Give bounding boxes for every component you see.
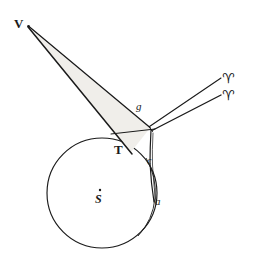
label-center-s: S [95,193,102,205]
center-dot [99,189,101,191]
vertex-dot [27,25,30,28]
label-aries-upper-icon: ♈ [222,71,235,85]
label-point-c: c [147,156,151,166]
sight-wedge-fill [28,27,150,152]
label-point-g: g [136,101,142,112]
label-aries-lower-icon: ♈ [222,88,235,102]
ray-g-to-aries-upper [150,78,222,127]
main-circle [47,138,157,248]
diagram-svg [0,0,259,265]
curve-g-c-a [150,130,154,202]
line-v-to-t [29,28,133,155]
label-point-a: a [155,196,161,207]
diagram-canvas: V T g c a S ♈ ♈ [0,0,259,265]
ray-g-to-aries-lower [152,95,221,131]
label-vertex-v: V [14,17,23,30]
label-tangent-point-t: T [114,143,123,156]
line-v-to-g [29,27,150,128]
